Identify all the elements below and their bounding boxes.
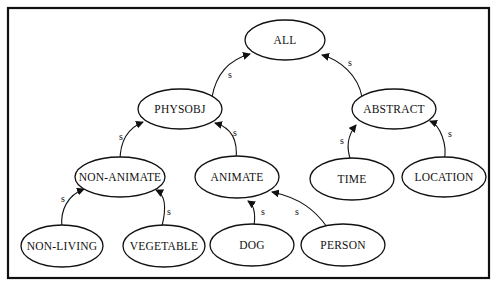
edge-label: s (295, 206, 299, 217)
edge-animate-physobj: s (215, 123, 237, 160)
edge-abstract-all: s (322, 55, 362, 97)
svg-text:TIME: TIME (338, 173, 367, 185)
node-all: ALL (245, 20, 325, 60)
svg-text:ABSTRACT: ABSTRACT (363, 103, 425, 115)
edge-person-animate: s (272, 192, 327, 227)
node-dog: DOG (210, 224, 294, 266)
hierarchy-diagram: s s s s s s s s s s ALL PHYSOBJ (0, 0, 497, 285)
edge-label: s (261, 206, 265, 217)
edge-label: s (233, 127, 237, 138)
svg-text:LOCATION: LOCATION (414, 171, 474, 183)
node-time: TIME (310, 158, 394, 200)
node-non-living: NON-LIVING (21, 225, 103, 267)
edge-label: s (167, 206, 171, 217)
svg-text:NON-ANIMATE: NON-ANIMATE (79, 171, 162, 183)
node-non-animate: NON-ANIMATE (75, 157, 165, 197)
svg-text:PHYSOBJ: PHYSOBJ (154, 103, 206, 115)
svg-text:ALL: ALL (274, 34, 297, 46)
edge-time-abstract: s (340, 125, 356, 161)
edge-dog-animate: s (248, 201, 265, 226)
svg-text:NON-LIVING: NON-LIVING (27, 240, 97, 252)
node-person: PERSON (301, 224, 385, 266)
edge-physobj-all: s (212, 54, 250, 97)
edge-nonliving-nonanimate: s (61, 189, 84, 227)
edge-nonanimate-physobj: s (119, 122, 143, 161)
edge-location-abstract: s (430, 121, 452, 161)
edge-label: s (61, 193, 65, 204)
edge-label: s (340, 135, 344, 146)
node-vegetable: VEGETABLE (123, 225, 205, 267)
node-location: LOCATION (402, 157, 486, 197)
svg-text:PERSON: PERSON (320, 239, 366, 251)
svg-text:ANIMATE: ANIMATE (210, 171, 263, 183)
svg-text:VEGETABLE: VEGETABLE (130, 240, 199, 252)
edge-vegetable-nonanimate: s (156, 190, 171, 226)
edge-label: s (228, 69, 232, 80)
edge-label: s (119, 131, 123, 142)
svg-text:DOG: DOG (239, 239, 265, 251)
node-physobj: PHYSOBJ (138, 89, 222, 129)
edge-label: s (348, 57, 352, 68)
node-abstract: ABSTRACT (352, 89, 436, 129)
edge-label: s (448, 128, 452, 139)
node-animate: ANIMATE (195, 156, 279, 198)
